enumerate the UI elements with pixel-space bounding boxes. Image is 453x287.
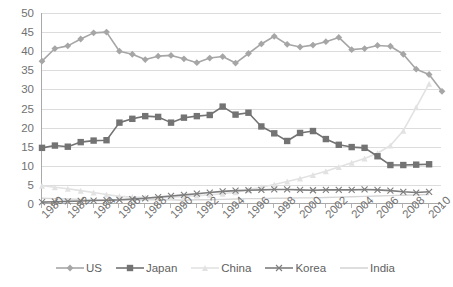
- legend-item-india[interactable]: India: [339, 262, 395, 274]
- data-point-square: [207, 112, 213, 118]
- y-tick-label: 5: [28, 179, 34, 191]
- data-point-square: [116, 119, 122, 125]
- chart-legend: USJapanChinaKoreaIndia: [0, 258, 450, 278]
- data-point-diamond: [90, 29, 97, 36]
- y-tick-label: 35: [21, 64, 34, 76]
- data-point-square: [245, 110, 251, 116]
- data-point-diamond: [322, 38, 329, 45]
- data-point-square: [155, 114, 161, 120]
- data-point-diamond: [181, 55, 188, 62]
- data-point-square: [426, 161, 432, 167]
- data-point-square: [232, 111, 238, 117]
- legend-label: US: [86, 262, 102, 274]
- data-point-square: [168, 119, 174, 125]
- data-point-square: [65, 144, 71, 150]
- legend-label: Japan: [146, 262, 177, 274]
- data-point-diamond: [310, 42, 317, 49]
- legend-item-us[interactable]: US: [55, 262, 102, 274]
- data-point-triangle: [413, 104, 419, 110]
- data-point-triangle: [426, 81, 432, 87]
- data-point-square: [142, 113, 148, 119]
- plot-area: [41, 13, 441, 204]
- series-japan: [39, 103, 432, 168]
- data-point-square: [103, 137, 109, 143]
- data-point-diamond: [155, 53, 162, 60]
- data-point-square: [219, 103, 225, 109]
- data-point-diamond: [361, 45, 368, 52]
- y-tick-label: 45: [21, 26, 34, 38]
- data-point-diamond: [374, 42, 381, 49]
- data-point-diamond: [219, 53, 226, 60]
- data-point-square: [90, 137, 96, 143]
- data-point-square: [323, 136, 329, 142]
- legend-swatch-x-icon: [264, 262, 294, 274]
- series-line: [42, 32, 442, 91]
- y-tick-label: 30: [21, 83, 34, 95]
- series-container: [42, 13, 442, 204]
- legend-item-korea[interactable]: Korea: [264, 262, 326, 274]
- data-point-diamond: [129, 51, 136, 58]
- data-point-diamond: [297, 44, 304, 51]
- data-point-square: [336, 142, 342, 148]
- data-point-square: [127, 265, 133, 271]
- data-point-square: [284, 138, 290, 144]
- data-point-square: [78, 139, 84, 145]
- legend-swatch-diamond-icon: [55, 262, 85, 274]
- data-point-diamond: [168, 52, 175, 59]
- y-tick-label: 40: [21, 45, 34, 57]
- data-point-square: [194, 113, 200, 119]
- data-point-square: [52, 142, 58, 148]
- y-tick-label: 10: [21, 160, 34, 172]
- legend-label: Korea: [295, 262, 326, 274]
- legend-item-china[interactable]: China: [190, 262, 251, 274]
- y-axis: 05101520253035404550: [0, 0, 38, 210]
- data-point-square: [387, 162, 393, 168]
- data-point-square: [310, 128, 316, 134]
- data-point-diamond: [193, 59, 200, 66]
- series-us: [39, 29, 446, 95]
- y-tick-label: 20: [21, 122, 34, 134]
- y-tick-label: 50: [21, 7, 34, 19]
- data-point-square: [181, 114, 187, 120]
- data-point-square: [348, 144, 354, 150]
- data-point-diamond: [142, 56, 149, 63]
- x-axis: 1980198219841986198819901992199419961998…: [41, 206, 451, 252]
- data-point-square: [413, 161, 419, 167]
- data-point-square: [39, 145, 45, 151]
- legend-label: China: [221, 262, 251, 274]
- legend-swatch-line-icon: [339, 262, 369, 274]
- data-point-square: [297, 130, 303, 136]
- data-point-square: [129, 116, 135, 122]
- legend-swatch-triangle-icon: [190, 262, 220, 274]
- data-point-diamond: [64, 42, 71, 49]
- data-point-diamond: [77, 36, 84, 43]
- data-point-square: [258, 123, 264, 129]
- y-tick-label: 25: [21, 103, 34, 115]
- y-tick-label: 0: [28, 198, 34, 210]
- legend-swatch-square-icon: [115, 262, 145, 274]
- data-point-square: [271, 130, 277, 136]
- y-tick-label: 15: [21, 141, 34, 153]
- legend-label: India: [370, 262, 395, 274]
- data-point-square: [400, 162, 406, 168]
- data-point-square: [374, 153, 380, 159]
- legend-item-japan[interactable]: Japan: [115, 262, 177, 274]
- data-point-triangle: [400, 128, 406, 134]
- data-point-diamond: [206, 55, 213, 62]
- data-point-square: [361, 145, 367, 151]
- data-point-diamond: [67, 265, 74, 272]
